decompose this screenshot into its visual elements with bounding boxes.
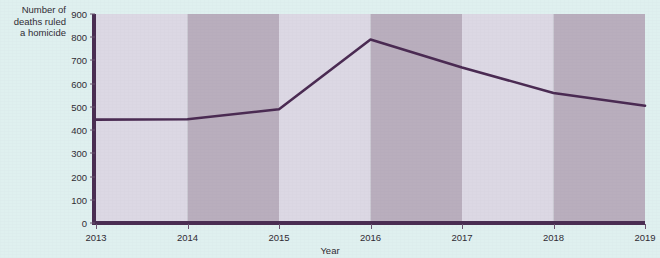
y-tick-mark xyxy=(90,199,95,200)
y-tick-label: 700 xyxy=(61,55,87,66)
x-tick-mark xyxy=(188,224,189,229)
background-band xyxy=(554,14,646,225)
background-band xyxy=(188,14,280,225)
y-tick-mark xyxy=(90,37,95,38)
background-band xyxy=(371,14,463,225)
x-tick-label: 2015 xyxy=(257,232,301,243)
y-tick-label: 400 xyxy=(61,125,87,136)
line-chart: Number of deaths ruled a homicide 010020… xyxy=(0,0,660,258)
y-tick-mark xyxy=(90,153,95,154)
y-tick-label: 600 xyxy=(61,78,87,89)
x-axis-title: Year xyxy=(0,245,660,256)
x-tick-mark xyxy=(645,224,646,229)
y-tick-mark xyxy=(90,130,95,131)
y-tick-label: 300 xyxy=(61,148,87,159)
x-tick-mark xyxy=(371,224,372,229)
y-tick-label: 500 xyxy=(61,101,87,112)
y-tick-mark xyxy=(90,60,95,61)
y-tick-mark xyxy=(90,14,95,15)
x-tick-mark xyxy=(462,224,463,229)
x-tick-mark xyxy=(279,224,280,229)
plot-area xyxy=(0,0,660,258)
x-tick-label: 2017 xyxy=(440,232,484,243)
x-tick-label: 2014 xyxy=(166,232,210,243)
y-tick-label: 0 xyxy=(61,218,87,229)
y-tick-label: 800 xyxy=(61,32,87,43)
x-tick-label: 2019 xyxy=(623,232,660,243)
y-tick-mark xyxy=(90,83,95,84)
x-tick-mark xyxy=(96,224,97,229)
x-tick-mark xyxy=(554,224,555,229)
y-tick-mark xyxy=(90,223,95,224)
y-tick-mark xyxy=(90,176,95,177)
y-tick-label: 100 xyxy=(61,194,87,205)
x-tick-label: 2018 xyxy=(532,232,576,243)
x-axis-line xyxy=(92,221,645,225)
x-tick-label: 2013 xyxy=(74,232,118,243)
background-band xyxy=(279,14,371,225)
y-tick-label: 900 xyxy=(61,9,87,20)
x-tick-label: 2016 xyxy=(349,232,393,243)
y-tick-mark xyxy=(90,106,95,107)
y-tick-label: 200 xyxy=(61,171,87,182)
background-band xyxy=(462,14,554,225)
